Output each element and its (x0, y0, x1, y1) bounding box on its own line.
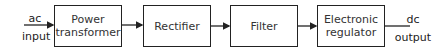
dc-label: dc (393, 13, 433, 26)
output-label: output (393, 31, 433, 44)
input-label: input (22, 30, 48, 43)
block-label: Rectifier (154, 20, 200, 33)
block-electronic-regulator: Electronic regulator (317, 5, 385, 47)
block-label: transformer (55, 26, 120, 39)
block-label: regulator (324, 26, 378, 39)
block-label: Electronic (324, 13, 378, 26)
block-power-transformer: Power transformer (54, 5, 122, 47)
block-label: Filter (250, 20, 277, 33)
block-label: Power (55, 13, 120, 26)
block-filter: Filter (230, 5, 298, 47)
block-rectifier: Rectifier (143, 5, 211, 47)
ac-input-label: ac input (22, 12, 48, 43)
ac-label: ac (22, 12, 48, 25)
dc-output-label: dc output (393, 13, 433, 44)
